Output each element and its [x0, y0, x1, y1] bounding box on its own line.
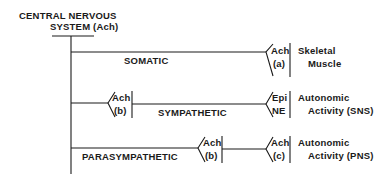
sympathetic-label: SYMPATHETIC [158, 107, 227, 118]
cns-title-line2: SYSTEM (Ach) [50, 21, 118, 32]
cns-title-line1: CENTRAL NERVOUS [19, 10, 117, 21]
sympathetic-effector-transmitter: Epi [272, 92, 287, 103]
nervous-system-diagram: CENTRAL NERVOUS SYSTEM (Ach) SOMATIC Ach… [0, 0, 390, 180]
parasympathetic-label: PARASYMPATHETIC [82, 151, 178, 162]
sympathetic-ganglion-transmitter: Ach [112, 92, 131, 103]
somatic-effector-receptor: (a) [273, 58, 285, 69]
parasympathetic-effector-receptor: (c) [273, 150, 285, 161]
sympathetic-effector-receptor: NE [272, 105, 286, 116]
somatic-effector-transmitter: Ach [271, 45, 290, 56]
sympathetic-target-line2: Activity (SNS) [308, 105, 374, 116]
parasympathetic-ganglion-transmitter: Ach [203, 137, 222, 148]
parasympathetic-target-line1: Autonomic [298, 137, 349, 148]
parasympathetic-effector-transmitter: Ach [271, 137, 290, 148]
sympathetic-ganglion-receptor: (b) [114, 105, 127, 116]
parasympathetic-target-line2: Activity (PNS) [308, 150, 374, 161]
somatic-label: SOMATIC [124, 55, 169, 66]
parasympathetic-ganglion-receptor: (b) [205, 150, 218, 161]
somatic-target-line1: Skeletal [298, 45, 336, 56]
sympathetic-target-line1: Autonomic [298, 92, 349, 103]
somatic-target-line2: Muscle [308, 58, 341, 69]
